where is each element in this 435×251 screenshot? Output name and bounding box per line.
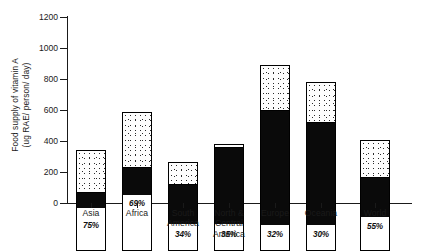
bar-asia: 75% — [76, 150, 106, 251]
y-tick-label-200: 200 — [36, 167, 58, 177]
bar-oceania: 30% — [306, 82, 336, 251]
y-tick-400 — [60, 141, 67, 142]
bar-asia-percent-label: 75% — [77, 221, 105, 230]
y-axis-title-line-2: (ug RAE/ person/ day) — [20, 58, 31, 152]
bar-asia-segment-stippled — [77, 151, 105, 194]
bar-africa: 69% — [122, 112, 152, 251]
y-tick-label-400: 400 — [36, 136, 58, 146]
y-tick-label-1000: 1000 — [36, 43, 58, 53]
bar-europe: 32% — [260, 65, 290, 251]
y-tick-1000 — [60, 48, 67, 49]
y-tick-800 — [60, 79, 67, 80]
bar-africa-segment-black — [123, 168, 151, 198]
bar-oceania-segment-stippled — [307, 83, 335, 123]
bar-world: 55% — [360, 140, 390, 251]
bar-world-percent-label: 55% — [361, 222, 389, 231]
bar-world-segment-stippled — [361, 141, 389, 177]
y-tick-label-0: 0 — [36, 198, 58, 208]
y-axis-title: Food supply of vitamin A (ug RAE/ person… — [0, 0, 40, 210]
y-tick-label-800: 800 — [36, 74, 58, 84]
x-label-world-line-1: World — [339, 208, 411, 218]
y-tick-600 — [60, 110, 67, 111]
vitamin-a-supply-bar-chart: Food supply of vitamin A (ug RAE/ person… — [0, 0, 435, 251]
y-tick-200 — [60, 172, 67, 173]
y-axis-title-line-1: Food supply of vitamin A — [10, 58, 20, 152]
bar-europe-segment-stippled — [261, 66, 289, 111]
x-label-north-central-america-line-2: Central — [193, 218, 265, 228]
bar-oceania-percent-label: 30% — [307, 230, 335, 239]
bar-europe-percent-label: 32% — [261, 230, 289, 239]
y-tick-1200 — [60, 17, 67, 18]
bar-south-america-segment-stippled — [169, 163, 197, 185]
y-tick-label-600: 600 — [36, 105, 58, 115]
bar-africa-segment-stippled — [123, 113, 151, 168]
y-tick-label-1200: 1200 — [36, 12, 58, 22]
x-label-world: World — [339, 208, 411, 218]
y-axis-line — [67, 16, 68, 204]
y-tick-0 — [60, 203, 67, 204]
x-label-north-central-america-line-3: America — [193, 229, 265, 239]
